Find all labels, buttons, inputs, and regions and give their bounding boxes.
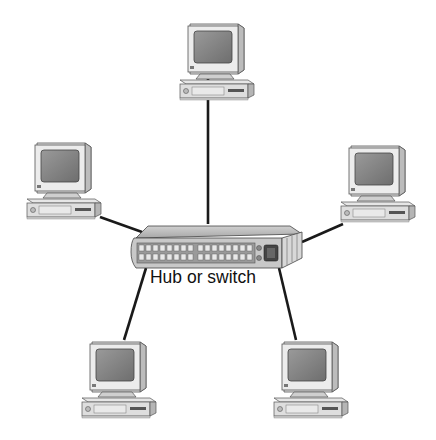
cable-right [302,224,343,242]
pc-bottom-right [274,342,348,418]
hub-label: Hub or switch [150,266,256,288]
network-hub-icon [131,226,302,268]
cables [100,76,343,340]
cable-bottom-left [124,268,146,340]
cable-left [100,217,142,232]
pc-bottom-left [82,342,156,418]
network-diagram [0,0,436,440]
pc-top [180,24,254,100]
pc-right [341,146,415,222]
pc-left [27,143,101,219]
cable-bottom-right [279,268,296,340]
